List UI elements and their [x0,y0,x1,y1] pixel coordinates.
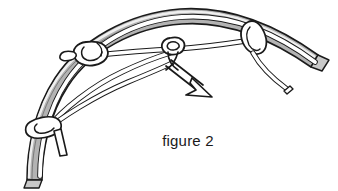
cord-tail-right-body [253,53,287,89]
knot-diagram [0,0,338,191]
strap-band [24,9,329,188]
knot-middle-eye [167,42,179,50]
arrow-shaft-line-b [171,60,203,85]
strap-end-left [24,180,42,188]
figure-container: figure 2 [0,0,338,191]
figure-caption: figure 2 [0,132,338,149]
knot-left-body [74,42,108,66]
figure-caption-label: figure 2 [124,132,214,149]
knot-left-bight [60,51,76,61]
